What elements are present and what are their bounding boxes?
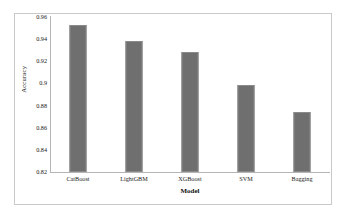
y-tick-label: 0.96 xyxy=(36,14,47,20)
x-tick-label: LightGBM xyxy=(106,176,162,182)
x-tick-label: XGBoost xyxy=(162,176,218,182)
x-axis-title: Model xyxy=(50,188,330,195)
y-tick-label: 0.9 xyxy=(39,80,47,86)
x-tick-label: SVM xyxy=(218,176,274,182)
y-tick-label: 0.82 xyxy=(36,169,47,175)
bar-slot xyxy=(218,17,274,172)
bar-slot xyxy=(106,17,162,172)
bar xyxy=(126,41,143,172)
y-tick-label: 0.86 xyxy=(36,125,47,131)
bar xyxy=(294,112,311,172)
bar xyxy=(182,52,199,172)
bar-slot xyxy=(274,17,330,172)
x-tick-label: CatBoost xyxy=(50,176,106,182)
y-tick-label: 0.88 xyxy=(36,102,47,108)
y-tick-label: 0.92 xyxy=(36,58,47,64)
bar xyxy=(238,85,255,172)
x-axis-line xyxy=(50,172,330,173)
plot-area xyxy=(50,17,330,172)
y-tick-label: 0.94 xyxy=(36,36,47,42)
x-tick-label: Bagging xyxy=(274,176,330,182)
bar-slot xyxy=(50,17,106,172)
bar xyxy=(70,25,87,172)
bar-slot xyxy=(162,17,218,172)
y-tick-label: 0.84 xyxy=(36,147,47,153)
chart-screenshot: 0.820.840.860.880.90.920.940.96 Accuracy… xyxy=(0,0,348,217)
y-axis-title: Accuracy xyxy=(21,49,28,109)
